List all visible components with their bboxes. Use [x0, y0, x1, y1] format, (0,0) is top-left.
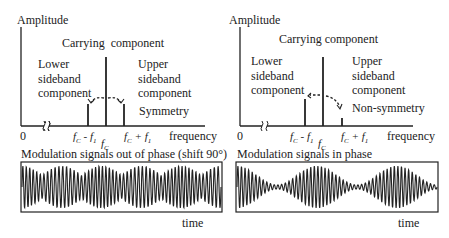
left-symmetry-label: Symmetry: [139, 104, 189, 118]
right-amplitude-label: Amplitude: [229, 13, 280, 27]
right-tick-upper: fC + f1: [341, 129, 368, 148]
right-upper-label: Uppersidebandcomponent: [352, 54, 405, 98]
right-origin-label: 0: [237, 129, 243, 143]
left-signal-title: Modulation signals out of phase (shift 9…: [21, 147, 227, 161]
right-time-label: time: [398, 216, 419, 230]
left-frequency-label: frequency: [169, 129, 217, 143]
left-tick-lower: fC - f1: [73, 129, 96, 148]
right-nonsymmetry-label: Non-symmetry: [352, 101, 425, 115]
right-lower-label: Lowersidebandcomponent: [251, 54, 304, 98]
left-amplitude-label: Amplitude: [17, 13, 68, 27]
left-waveform: [22, 166, 221, 208]
left-carrier-label: Carrying component: [62, 36, 164, 50]
right-waveform: [237, 166, 437, 208]
right-signal-title: Modulation signals in phase: [237, 147, 372, 161]
left-time-label: time: [182, 216, 203, 230]
left-lower-label: Lowersidebandcomponent: [38, 57, 91, 101]
left-origin-label: 0: [20, 129, 26, 143]
left-tick-upper: fC + f1: [124, 129, 151, 148]
right-tick-lower: fC - f1: [290, 129, 313, 148]
right-carrier-label: Carrying component: [279, 32, 378, 46]
left-upper-label: Uppersidebandcomponent: [138, 57, 191, 101]
right-frequency-label: frequency: [387, 129, 435, 143]
